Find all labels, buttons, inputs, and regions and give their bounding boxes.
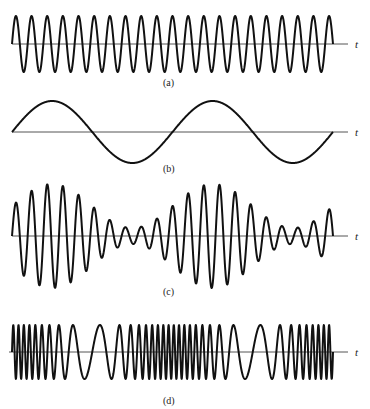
panel-label-b: (b) (163, 163, 175, 175)
axis-label-t-d: t (355, 346, 359, 358)
panel-b-modulating: t (b) (12, 101, 359, 175)
panel-label-a: (a) (163, 77, 174, 89)
panel-c-am: t (c) (12, 184, 359, 298)
panel-label-c: (c) (163, 286, 174, 298)
panel-d-fm: t (d) (9, 325, 359, 407)
panel-a-carrier: t (a) (12, 16, 359, 89)
panel-label-d: (d) (163, 395, 175, 407)
axis-label-t-c: t (355, 230, 359, 242)
axis-label-t-b: t (355, 126, 359, 138)
modulation-figure: t (a) t (b) t (c) t (d) (0, 0, 370, 409)
axis-label-t-a: t (355, 38, 359, 50)
